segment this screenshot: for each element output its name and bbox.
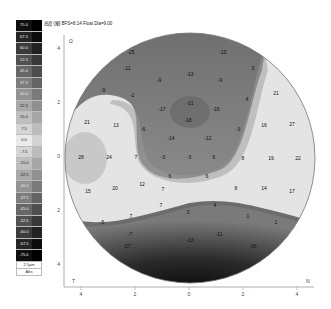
value-label: 16 — [261, 122, 267, 128]
value-label: -21 — [186, 100, 193, 106]
value-label: 8 — [235, 185, 238, 191]
value-label: 20 — [112, 185, 118, 191]
x-tick-label: 0 — [188, 291, 191, 297]
value-label: 8 — [242, 155, 245, 161]
y-tick-label: 4 — [57, 45, 60, 51]
value-label: -14 — [167, 135, 174, 141]
value-label: -9 — [218, 77, 223, 83]
value-label: 28 — [78, 154, 84, 160]
map-disc — [60, 30, 320, 290]
x-tick-label: 4 — [296, 291, 299, 297]
value-label: -3 — [236, 126, 241, 132]
value-label: -15 — [219, 49, 226, 55]
value-label: 14 — [261, 185, 267, 191]
value-label: -25 — [127, 49, 134, 55]
value-label: -3 — [187, 154, 192, 160]
x-tick-label: 2 — [242, 291, 245, 297]
value-label: 7 — [160, 202, 163, 208]
value-label: 1 — [275, 219, 278, 225]
y-tick-label: 2 — [57, 207, 60, 213]
value-label: 12 — [139, 181, 145, 187]
value-label: -27 — [123, 243, 130, 249]
y-tick-label: 4 — [57, 261, 60, 267]
value-label: -9 — [157, 77, 162, 83]
x-ticks: 42024 — [80, 287, 299, 297]
value-label: 6 — [169, 173, 172, 179]
value-label: -11 — [124, 65, 131, 71]
value-label: 4 — [246, 96, 249, 102]
value-label: 7 — [135, 154, 138, 160]
value-label: -13 — [186, 237, 193, 243]
value-label: 15 — [85, 188, 91, 194]
value-label: -17 — [158, 106, 165, 112]
value-label: 6 — [213, 154, 216, 160]
value-label: -11 — [216, 231, 223, 237]
value-label: 24 — [106, 154, 112, 160]
value-label: 21 — [84, 119, 90, 125]
value-label: -18 — [184, 117, 191, 123]
value-label: -13 — [186, 71, 193, 77]
value-label: 7 — [130, 213, 133, 219]
value-label: 17 — [289, 188, 295, 194]
value-label: 3 — [187, 209, 190, 215]
value-label: 27 — [289, 121, 295, 127]
value-label: 1 — [247, 213, 250, 219]
value-label: -12 — [204, 135, 211, 141]
y-ticks: 42024 — [57, 45, 60, 267]
value-label: -6 — [141, 126, 146, 132]
value-label: -16 — [212, 106, 219, 112]
value-label: 4 — [214, 202, 217, 208]
label-nasal: N — [306, 278, 310, 284]
x-tick-label: 4 — [80, 291, 83, 297]
value-label: -3 — [161, 154, 166, 160]
value-label: -5 — [100, 219, 105, 225]
value-label: 6 — [206, 173, 209, 179]
value-label: 21 — [273, 90, 279, 96]
value-label: 13 — [113, 122, 119, 128]
value-label: 7 — [162, 186, 165, 192]
value-label: -7 — [128, 231, 133, 237]
x-tick-label: 2 — [134, 291, 137, 297]
value-label: 22 — [295, 155, 301, 161]
y-tick-label: 2 — [57, 99, 60, 105]
value-label: -26 — [249, 243, 256, 249]
value-label: -2 — [130, 92, 135, 98]
label-temporal: T — [72, 278, 75, 284]
value-label: -9 — [101, 87, 106, 93]
value-label: 3 — [252, 65, 255, 71]
scale-marker: Ω — [69, 38, 73, 44]
value-label: 19 — [268, 155, 274, 161]
elevation-map: -25-15-11-13-9-93-9-2-17-21-164212113-6-… — [0, 0, 331, 309]
y-tick-label: 0 — [57, 153, 60, 159]
